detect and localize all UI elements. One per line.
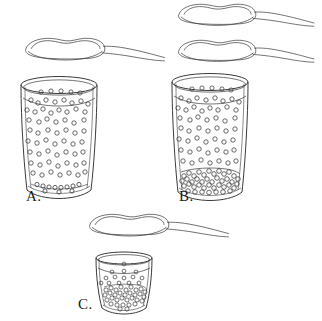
glass-a xyxy=(21,77,97,199)
glass-b xyxy=(172,74,248,201)
particles-a xyxy=(25,89,90,177)
panel-label-b: B. xyxy=(179,188,194,205)
sediment-c xyxy=(103,284,147,311)
spoon-icon-a xyxy=(26,38,165,61)
glass-c xyxy=(96,252,152,314)
spoon-icon-c xyxy=(90,214,229,237)
spoon-icon-b1 xyxy=(179,4,315,26)
spoon-icon-b2 xyxy=(179,40,315,62)
panel-label-c: C. xyxy=(78,296,93,313)
panel-label-a: A. xyxy=(26,188,42,205)
beaker-diagram-svg xyxy=(0,0,322,321)
particles-b xyxy=(176,86,241,165)
diagram-canvas xyxy=(0,0,322,321)
